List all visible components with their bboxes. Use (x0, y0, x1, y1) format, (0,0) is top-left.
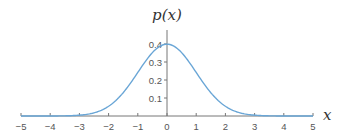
y-axis-title: p(x) (152, 6, 182, 24)
x-tick-label: 4 (281, 121, 286, 132)
x-tick-label: −4 (45, 121, 56, 132)
y-tick-label: 0.2 (149, 75, 162, 86)
x-tick-label: 0 (164, 121, 169, 132)
ticks: −5−4−3−2−10123450.10.20.30.4 (16, 39, 316, 133)
y-tick-label: 0.3 (149, 57, 162, 68)
axes (21, 30, 313, 116)
x-tick-label: 1 (194, 121, 199, 132)
x-tick-label: −1 (132, 121, 143, 132)
x-tick-label: −2 (103, 121, 114, 132)
y-tick-label: 0.4 (149, 39, 162, 50)
x-tick-label: −3 (74, 121, 85, 132)
x-axis-title: x (323, 106, 332, 124)
y-tick-label: 0.1 (149, 93, 162, 104)
x-tick-label: 5 (310, 121, 315, 132)
x-tick-label: 2 (223, 121, 228, 132)
x-tick-label: −5 (16, 121, 27, 132)
chart: −5−4−3−2−10123450.10.20.30.4 x p(x) (0, 0, 346, 140)
x-tick-label: 3 (252, 121, 257, 132)
